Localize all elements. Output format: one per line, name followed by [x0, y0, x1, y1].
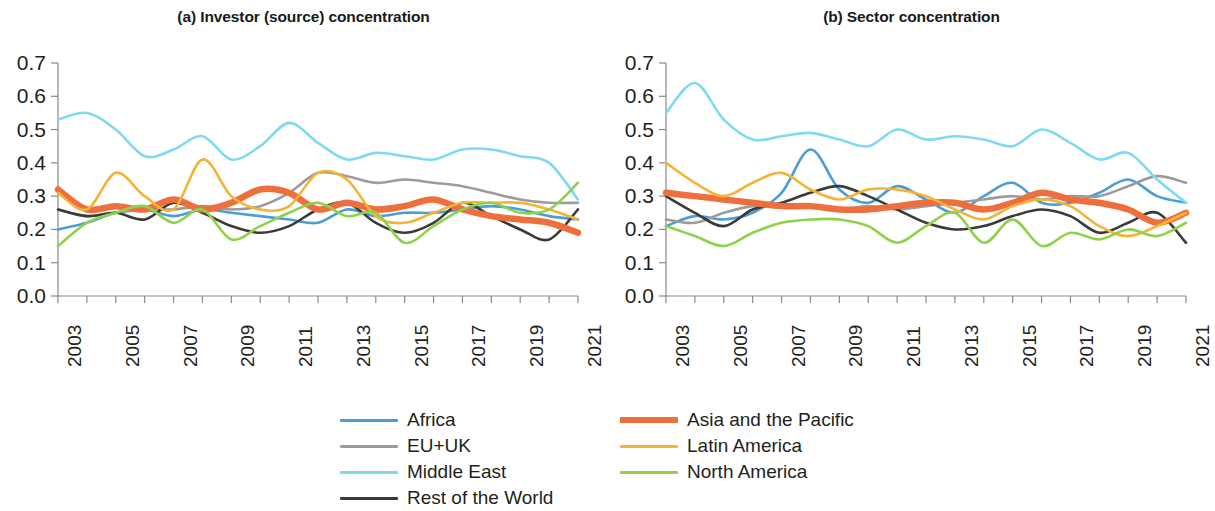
panel-a-x-axis-labels: 2003200520072009201120132015201720192021 — [0, 305, 607, 400]
x-axis-tick-label: 2021 — [1193, 325, 1212, 367]
x-axis-tick-label: 2011 — [296, 326, 315, 367]
x-axis-tick-label: 2007 — [789, 325, 808, 367]
x-axis-tick-label: 2011 — [904, 326, 923, 367]
legend-swatch-north-america — [620, 471, 678, 474]
legend-swatch-latin-america — [620, 445, 678, 448]
panel-investor-concentration: (a) Investor (source) concentration 0.70… — [0, 0, 607, 400]
legend-swatch-eu-uk — [340, 445, 398, 448]
legend-item[interactable]: EU+UK — [340, 434, 553, 458]
legend-column-right: Asia and the PacificLatin AmericaNorth A… — [620, 408, 854, 486]
legend-item[interactable]: Latin America — [620, 434, 854, 458]
x-axis-tick-label: 2017 — [469, 325, 488, 367]
legend-column-left: AfricaEU+UKMiddle EastRest of the World — [340, 408, 553, 511]
x-axis-tick-label: 2015 — [1020, 325, 1039, 367]
x-axis-tick-label: 2009 — [846, 325, 865, 367]
x-axis-tick-label: 2013 — [962, 325, 981, 367]
legend-label: Rest of the World — [407, 488, 553, 508]
legend-item[interactable]: Rest of the World — [340, 486, 553, 510]
x-axis-tick-label: 2005 — [731, 325, 750, 367]
panel-sector-concentration: (b) Sector concentration 0.70.60.50.40.3… — [608, 0, 1215, 400]
panel-a-plot-area — [0, 40, 607, 310]
legend-label: North America — [687, 462, 807, 482]
legend-swatch-middle-east — [340, 471, 398, 474]
legend-label: Latin America — [687, 436, 802, 456]
legend-item[interactable]: Africa — [340, 408, 553, 432]
x-axis-tick-label: 2005 — [123, 325, 142, 367]
x-axis-tick-label: 2021 — [585, 325, 604, 367]
legend-swatch-rest-of-the-world — [340, 497, 398, 500]
x-axis-tick-label: 2019 — [1135, 325, 1154, 367]
legend-item[interactable]: Asia and the Pacific — [620, 408, 854, 432]
panel-b-plot-area — [608, 40, 1215, 310]
panel-a-svg — [0, 40, 607, 310]
legend-item[interactable]: Middle East — [340, 460, 553, 484]
legend-label: Middle East — [407, 462, 506, 482]
chart-legend: AfricaEU+UKMiddle EastRest of the World … — [0, 408, 1215, 511]
series-line-middle-east — [666, 83, 1186, 203]
x-axis-tick-label: 2019 — [527, 325, 546, 367]
panel-a-title: (a) Investor (source) concentration — [0, 8, 607, 26]
legend-label: Asia and the Pacific — [687, 410, 854, 430]
series-line-latin-america — [58, 159, 578, 223]
axis-spine — [666, 63, 1186, 296]
x-axis-tick-label: 2013 — [354, 325, 373, 367]
x-axis-tick-label: 2015 — [412, 325, 431, 367]
x-axis-tick-label: 2003 — [673, 325, 692, 367]
axis-spine — [58, 63, 578, 296]
figure-concentration-charts: (a) Investor (source) concentration 0.70… — [0, 0, 1215, 511]
x-axis-tick-label: 2003 — [65, 325, 84, 367]
panel-b-x-axis-labels: 2003200520072009201120132015201720192021 — [608, 305, 1215, 400]
x-axis-tick-label: 2009 — [238, 325, 257, 367]
legend-item[interactable]: North America — [620, 460, 854, 484]
legend-swatch-africa — [340, 419, 398, 422]
panel-b-title: (b) Sector concentration — [608, 8, 1215, 26]
x-axis-tick-label: 2007 — [181, 325, 200, 367]
legend-swatch-asia-and-the-pacific — [620, 417, 678, 423]
legend-label: EU+UK — [407, 436, 471, 456]
panel-b-svg — [608, 40, 1215, 310]
legend-label: Africa — [407, 410, 456, 430]
x-axis-tick-label: 2017 — [1077, 325, 1096, 367]
